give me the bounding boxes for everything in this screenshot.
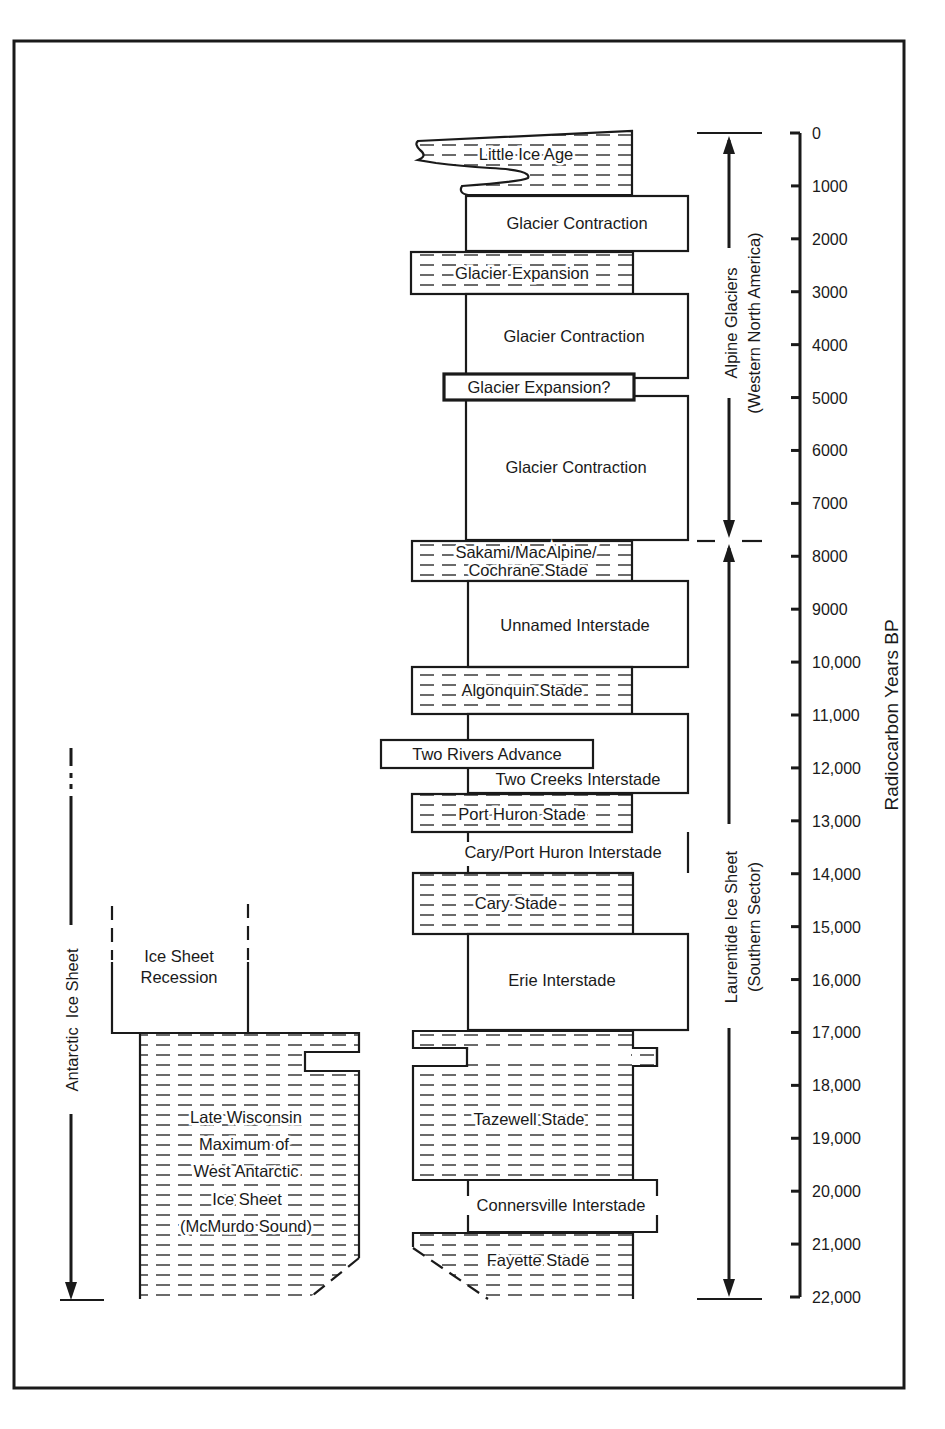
label-unnamed-interstade: Unnamed Interstade bbox=[500, 616, 650, 634]
label-cary-stade: Cary Stade bbox=[475, 894, 558, 912]
label-erie-interstade: Erie Interstade bbox=[508, 971, 615, 989]
alpine-bracket-label: Alpine Glaciers bbox=[722, 268, 740, 379]
label-glacier-expansion: Glacier Expansion bbox=[455, 264, 589, 282]
axis-tick-label: 2000 bbox=[812, 231, 848, 248]
axis-tick-label: 16,000 bbox=[812, 972, 861, 989]
glacial-chronology-diagram: 010002000300040005000600070008000900010,… bbox=[0, 0, 945, 1429]
label-lw-2: Maximum of bbox=[199, 1135, 289, 1153]
axis-tick-label: 11,000 bbox=[812, 707, 860, 724]
axis-tick-label: 13,000 bbox=[812, 813, 861, 830]
laurentide-column: Sakami/MacAlpine/ Cochrane Stade Unnamed… bbox=[381, 541, 688, 1299]
alpine-bracket-sublabel: (Western North America) bbox=[745, 232, 763, 413]
axis-tick-label: 5000 bbox=[812, 390, 848, 407]
label-two-rivers: Two Rivers Advance bbox=[412, 745, 561, 763]
label-lw-5: (McMurdo Sound) bbox=[180, 1217, 312, 1235]
axis-tick-label: 18,000 bbox=[812, 1077, 861, 1094]
axis-tick-label: 14,000 bbox=[812, 866, 861, 883]
label-two-creeks: Two Creeks Interstade bbox=[495, 770, 660, 788]
axis-tick-label: 0 bbox=[812, 125, 821, 142]
axis-tick-label: 12,000 bbox=[812, 760, 861, 777]
axis-tick-label: 1000 bbox=[812, 178, 848, 195]
laurentide-bracket-label: Laurentide Ice Sheet bbox=[722, 850, 740, 1003]
axis-tick-label: 21,000 bbox=[812, 1236, 861, 1253]
axis-tick-label: 15,000 bbox=[812, 919, 861, 936]
label-sakami-2: Cochrane Stade bbox=[468, 561, 587, 579]
tazewell-notch-fill bbox=[415, 1050, 631, 1064]
axis-tick-label: 4000 bbox=[812, 337, 848, 354]
axis-tick-label: 3000 bbox=[812, 284, 848, 301]
axis-tick-label: 8000 bbox=[812, 548, 848, 565]
label-recession-2: Recession bbox=[140, 968, 217, 986]
unit-little-ice-age bbox=[416, 131, 632, 195]
label-recession-1: Ice Sheet bbox=[144, 947, 214, 965]
label-sakami-1: Sakami/MacAlpine/ bbox=[455, 543, 597, 561]
label-glacier-expansion-q: Glacier Expansion? bbox=[467, 378, 610, 396]
label-port-huron: Port Huron Stade bbox=[458, 805, 586, 823]
label-lw-4: Ice Sheet bbox=[212, 1190, 282, 1208]
label-little-ice-age: Little Ice Age bbox=[479, 145, 573, 163]
label-tazewell: Tazewell Stade bbox=[474, 1110, 585, 1128]
axis-tick-label: 19,000 bbox=[812, 1130, 861, 1147]
antarctic-column: Ice Sheet Recession Late Wisconsin Maxim… bbox=[112, 904, 359, 1299]
axis-tick-label: 20,000 bbox=[812, 1183, 861, 1200]
label-glacier-contraction-2: Glacier Contraction bbox=[503, 327, 644, 345]
axis-tick-label: 9000 bbox=[812, 601, 848, 618]
label-glacier-contraction-3: Glacier Contraction bbox=[505, 458, 646, 476]
label-cary-port-huron: Cary/Port Huron Interstade bbox=[464, 843, 661, 861]
axis-tick-label: 7000 bbox=[812, 495, 848, 512]
laurentide-bracket-sublabel: (Southern Sector) bbox=[745, 862, 763, 992]
label-connersville: Connersville Interstade bbox=[477, 1196, 646, 1214]
alpine-column: Little Ice Age Glacier Contraction Glaci… bbox=[411, 131, 688, 540]
time-axis: 010002000300040005000600070008000900010,… bbox=[790, 125, 861, 1306]
axis-title: Radiocarbon Years BP bbox=[881, 619, 902, 810]
label-lw-1: Late Wisconsin bbox=[190, 1108, 302, 1126]
label-fayette: Fayette Stade bbox=[487, 1251, 590, 1269]
label-glacier-contraction-1: Glacier Contraction bbox=[506, 214, 647, 232]
axis-tick-label: 22,000 bbox=[812, 1289, 861, 1306]
label-lw-3: West Antarctic bbox=[193, 1162, 298, 1180]
label-algonquin-stade: Algonquin Stade bbox=[461, 681, 582, 699]
antarctic-bracket-label: Antarctic Ice Sheet bbox=[63, 948, 81, 1091]
axis-tick-label: 6000 bbox=[812, 442, 848, 459]
axis-tick-label: 10,000 bbox=[812, 654, 861, 671]
axis-tick-label: 17,000 bbox=[812, 1024, 861, 1041]
